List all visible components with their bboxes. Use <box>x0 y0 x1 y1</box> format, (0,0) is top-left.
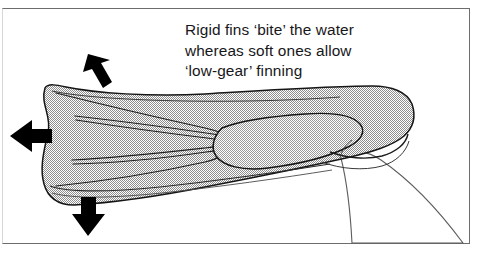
caption-line-3: ‘low-gear’ finning <box>185 61 435 82</box>
caption-line-1: Rigid fins ‘bite’ the water <box>185 20 435 41</box>
caption-line-2: whereas soft ones allow <box>185 41 435 62</box>
arrow-up-left <box>83 54 112 88</box>
fin-flexibility-figure: Rigid fins ‘bite’ the water whereas soft… <box>0 0 482 262</box>
diver-leg <box>341 152 463 243</box>
caption: Rigid fins ‘bite’ the water whereas soft… <box>185 20 435 82</box>
